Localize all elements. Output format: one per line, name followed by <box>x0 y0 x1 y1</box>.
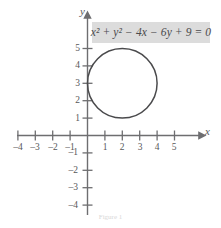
y-axis-label: y <box>80 6 85 17</box>
y-tick-label-1: 1 <box>68 114 80 124</box>
equation-highlight-box: x² + y² − 4x − 6y + 9 = 0 <box>92 22 210 43</box>
y-tick-label-5: 5 <box>68 44 80 54</box>
x-tick-label-3: 3 <box>132 143 148 153</box>
x-tick-label-5: 5 <box>166 143 182 153</box>
y-tick-label-4: 4 <box>68 61 80 71</box>
y-tick-label-2: 2 <box>68 96 80 106</box>
x-tick-label--2: –2 <box>45 143 61 153</box>
x-tick-label--3: –3 <box>27 143 43 153</box>
x-tick-label-1: 1 <box>97 143 113 153</box>
figure-container: x² + y² − 4x − 6y + 9 = 0 y x –4 –3 –2 –… <box>0 0 221 228</box>
circle-curve <box>88 49 158 119</box>
figure-caption: Figure 1 <box>0 214 221 221</box>
x-axis-label: x <box>205 126 210 137</box>
equation-text: x² + y² − 4x − 6y + 9 = 0 <box>91 27 211 39</box>
x-tick-label-2: 2 <box>114 143 130 153</box>
y-tick-label--4: –4 <box>66 201 78 211</box>
x-tick-label-4: 4 <box>149 143 165 153</box>
x-tick-label--4: –4 <box>10 143 26 153</box>
y-tick-label--3: –3 <box>66 183 78 193</box>
y-tick-label-3: 3 <box>68 79 80 89</box>
y-tick-label--2: –2 <box>66 166 78 176</box>
y-tick-label--1: –1 <box>66 148 78 158</box>
